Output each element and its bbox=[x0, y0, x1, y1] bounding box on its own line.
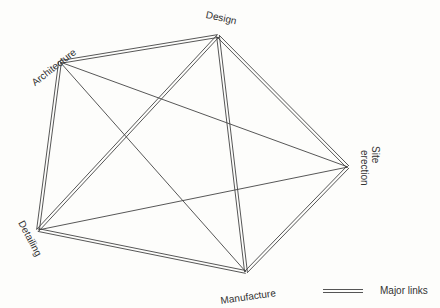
link-architecture-detailing bbox=[37, 62, 59, 230]
link-site-detailing bbox=[38, 167, 348, 230]
node-label-site-line1: Site bbox=[370, 146, 380, 163]
link-design-site bbox=[219, 35, 349, 166]
link-design-site bbox=[217, 37, 347, 168]
link-architecture-design bbox=[60, 35, 218, 61]
link-site-manufacture bbox=[247, 168, 349, 273]
link-architecture-manufacture bbox=[60, 62, 246, 272]
link-design-manufacture bbox=[217, 36, 245, 272]
link-design-manufacture bbox=[219, 36, 247, 272]
node-label-site-line2: erection bbox=[359, 150, 369, 186]
link-site-manufacture bbox=[245, 166, 347, 271]
legend-major-line bbox=[323, 290, 363, 293]
link-design-detailing bbox=[39, 37, 219, 231]
link-architecture-site bbox=[60, 62, 348, 167]
link-detailing-manufacture bbox=[38, 229, 246, 271]
legend-major-label: Major links bbox=[380, 286, 428, 296]
link-detailing-manufacture bbox=[38, 231, 246, 273]
link-architecture-detailing bbox=[39, 62, 61, 230]
links-layer bbox=[37, 35, 349, 274]
